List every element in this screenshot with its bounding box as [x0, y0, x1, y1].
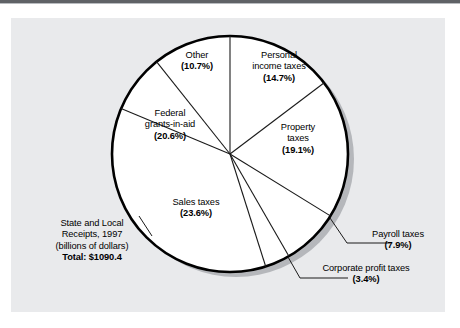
slice-label-corporate-profit-taxes-name: Corporate profit taxes: [287, 263, 445, 274]
slice-label-personal-income-taxes: Personal income taxes (14.7%): [235, 50, 323, 84]
slice-label-property-taxes-name-line1: Property: [265, 122, 331, 133]
slice-label-other-percent: (10.7%): [166, 61, 228, 72]
slice-label-corporate-profit-taxes: Corporate profit taxes (3.4%): [287, 263, 445, 286]
caption-line-2: Receipts, 1997: [24, 229, 160, 240]
slice-label-payroll-taxes-percent: (7.9%): [350, 240, 446, 251]
slice-label-federal-grants-in-aid: Federal grants-in-aid (20.6%): [124, 108, 216, 142]
slice-label-federal-grants-in-aid-name-line1: Federal: [124, 108, 216, 119]
pie-chart: Other (10.7%) Personal income taxes (14.…: [0, 0, 460, 328]
chart-caption: State and Local Receipts, 1997 (billions…: [24, 218, 160, 264]
slice-label-sales-taxes: Sales taxes (23.6%): [158, 197, 234, 220]
slice-label-property-taxes: Property taxes (19.1%): [265, 122, 331, 156]
slice-label-property-taxes-name-line2: taxes: [265, 133, 331, 144]
slice-label-personal-income-taxes-percent: (14.7%): [235, 73, 323, 84]
caption-line-3: (billions of dollars): [24, 241, 160, 252]
caption-line-1: State and Local: [24, 218, 160, 229]
slice-label-corporate-profit-taxes-percent: (3.4%): [287, 274, 445, 285]
figure-screenshot: Other (10.7%) Personal income taxes (14.…: [0, 0, 460, 328]
slice-label-other-name: Other: [166, 50, 228, 61]
slice-label-sales-taxes-percent: (23.6%): [158, 208, 234, 219]
slice-label-payroll-taxes-name: Payroll taxes: [350, 229, 446, 240]
slice-label-federal-grants-in-aid-name-line2: grants-in-aid: [124, 119, 216, 130]
slice-label-personal-income-taxes-name-line1: Personal: [235, 50, 323, 61]
slice-label-other: Other (10.7%): [166, 50, 228, 73]
slice-label-sales-taxes-name: Sales taxes: [158, 197, 234, 208]
slice-label-payroll-taxes: Payroll taxes (7.9%): [350, 229, 446, 252]
caption-total: Total: $1090.4: [24, 252, 160, 263]
slice-label-federal-grants-in-aid-percent: (20.6%): [124, 131, 216, 142]
slice-label-property-taxes-percent: (19.1%): [265, 145, 331, 156]
slice-label-personal-income-taxes-name-line2: income taxes: [235, 61, 323, 72]
